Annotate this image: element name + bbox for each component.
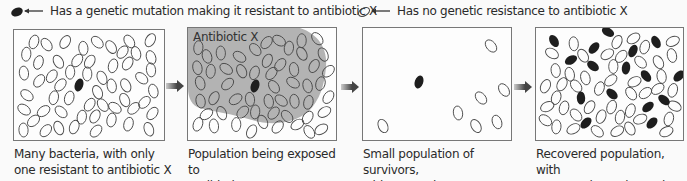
caption-line: Many bacteria, with only bbox=[14, 146, 179, 162]
resistant-bacterium bbox=[640, 100, 656, 115]
nonresistant-bacterium bbox=[119, 77, 133, 94]
nonresistant-bacterium bbox=[555, 76, 570, 93]
process-arrow-icon bbox=[166, 80, 184, 92]
nonresistant-bacterium bbox=[107, 58, 119, 74]
bacteria-field bbox=[363, 28, 512, 141]
nonresistant-bacterium bbox=[88, 123, 104, 140]
resistant-bacterium bbox=[73, 77, 85, 92]
nonresistant-bacterium bbox=[231, 117, 241, 131]
nonresistant-bacterium bbox=[209, 118, 220, 133]
nonresistant-bacterium bbox=[624, 102, 637, 118]
caption-line: Population being exposed to bbox=[188, 146, 348, 178]
caption-line: one resistant to antibiotic X bbox=[14, 162, 179, 178]
legend-resistant: Has a genetic mutation making it resista… bbox=[10, 2, 377, 20]
caption-survivors: Small population of survivors, with one … bbox=[363, 146, 528, 181]
nonresistant-bacterium bbox=[565, 122, 582, 137]
nonresistant-bacterium bbox=[632, 112, 648, 126]
nonresistant-bacterium bbox=[122, 33, 137, 50]
caption-line: many resistant bacteria bbox=[536, 178, 686, 181]
nonresistant-bacterium bbox=[302, 124, 317, 141]
outline-bacterium-icon bbox=[357, 4, 393, 18]
nonresistant-bacterium bbox=[579, 70, 592, 86]
nonresistant-bacterium bbox=[143, 32, 158, 49]
caption-line: Small population of survivors, bbox=[363, 146, 528, 178]
nonresistant-bacterium bbox=[496, 82, 512, 99]
nonresistant-bacterium bbox=[551, 119, 562, 134]
antibiotic-label: Antibiotic X bbox=[193, 30, 258, 44]
nonresistant-bacterium bbox=[19, 66, 30, 81]
resistant-bacterium bbox=[671, 68, 684, 83]
nonresistant-bacterium bbox=[78, 41, 89, 56]
nonresistant-bacterium bbox=[638, 39, 651, 55]
nonresistant-bacterium bbox=[103, 39, 118, 56]
resistant-bacterium bbox=[600, 28, 616, 39]
nonresistant-bacterium bbox=[550, 63, 561, 78]
panel-initial-population bbox=[13, 29, 165, 141]
nonresistant-bacterium bbox=[658, 125, 675, 139]
nonresistant-bacterium bbox=[76, 109, 88, 124]
nonresistant-bacterium bbox=[665, 34, 682, 48]
caption-exposure: Population being exposed to antibiotic X bbox=[188, 146, 348, 181]
nonresistant-bacterium bbox=[593, 80, 606, 96]
nonresistant-bacterium bbox=[16, 102, 33, 118]
nonresistant-bacterium bbox=[632, 54, 648, 70]
bacteria-field bbox=[536, 28, 684, 141]
nonresistant-bacterium bbox=[483, 38, 499, 55]
resistant-bacterium bbox=[649, 34, 663, 50]
nonresistant-bacterium bbox=[145, 105, 161, 122]
nonresistant-bacterium bbox=[67, 119, 81, 135]
nonresistant-bacterium bbox=[666, 82, 679, 98]
legend-nonresistant: Has no genetic resistance to antibiotic … bbox=[357, 2, 628, 20]
nonresistant-bacterium bbox=[625, 31, 642, 46]
resistant-bacterium bbox=[413, 74, 425, 89]
caption-line: with one resistant bbox=[363, 178, 528, 181]
nonresistant-bacterium bbox=[544, 46, 561, 61]
resistant-bacterium bbox=[621, 61, 631, 75]
resistant-bacterium bbox=[586, 40, 601, 55]
resistant-bacterium bbox=[547, 33, 561, 49]
nonresistant-bacterium bbox=[48, 90, 60, 106]
nonresistant-bacterium bbox=[58, 34, 73, 51]
nonresistant-bacterium bbox=[539, 100, 556, 114]
process-arrow-icon bbox=[341, 81, 359, 93]
nonresistant-bacterium bbox=[666, 48, 678, 64]
nonresistant-bacterium bbox=[622, 120, 637, 137]
panel-recovered-population bbox=[535, 27, 684, 141]
caption-recovered: Recovered population, with many resistan… bbox=[536, 146, 686, 181]
panel-survivors bbox=[362, 27, 512, 141]
nonresistant-bacterium bbox=[589, 123, 606, 139]
nonresistant-bacterium bbox=[27, 34, 40, 50]
process-arrow-icon bbox=[514, 81, 532, 93]
nonresistant-bacterium bbox=[63, 90, 76, 106]
bacteria-field bbox=[14, 30, 165, 141]
nonresistant-bacterium bbox=[656, 69, 667, 84]
nonresistant-bacterium bbox=[39, 36, 55, 53]
nonresistant-bacterium bbox=[452, 105, 463, 120]
nonresistant-bacterium bbox=[473, 90, 489, 107]
nonresistant-bacterium bbox=[490, 114, 503, 130]
nonresistant-bacterium bbox=[31, 73, 47, 90]
nonresistant-bacterium bbox=[537, 112, 554, 128]
nonresistant-bacterium bbox=[623, 85, 639, 102]
caption-initial: Many bacteria, with only one resistant t… bbox=[14, 146, 179, 178]
nonresistant-bacterium bbox=[321, 89, 337, 106]
nonresistant-bacterium bbox=[21, 47, 31, 62]
nonresistant-bacterium bbox=[594, 108, 608, 124]
filled-bacterium-icon bbox=[10, 4, 46, 18]
nonresistant-bacterium bbox=[19, 87, 36, 103]
nonresistant-bacterium bbox=[376, 118, 390, 135]
nonresistant-bacterium bbox=[106, 78, 118, 94]
nonresistant-bacterium bbox=[122, 116, 135, 132]
nonresistant-bacterium bbox=[605, 99, 618, 115]
panel-antibiotic-exposure: Antibiotic X bbox=[187, 27, 337, 141]
nonresistant-bacterium bbox=[53, 104, 70, 120]
caption-line: Recovered population, with bbox=[536, 146, 686, 178]
nonresistant-bacterium bbox=[136, 94, 152, 110]
caption-line: antibiotic X bbox=[188, 178, 348, 181]
resistant-bacterium bbox=[656, 93, 672, 108]
nonresistant-bacterium bbox=[609, 124, 626, 139]
nonresistant-bacterium bbox=[651, 54, 666, 71]
nonresistant-bacterium bbox=[133, 70, 150, 86]
nonresistant-bacterium bbox=[125, 100, 141, 116]
nonresistant-bacterium bbox=[558, 100, 571, 116]
